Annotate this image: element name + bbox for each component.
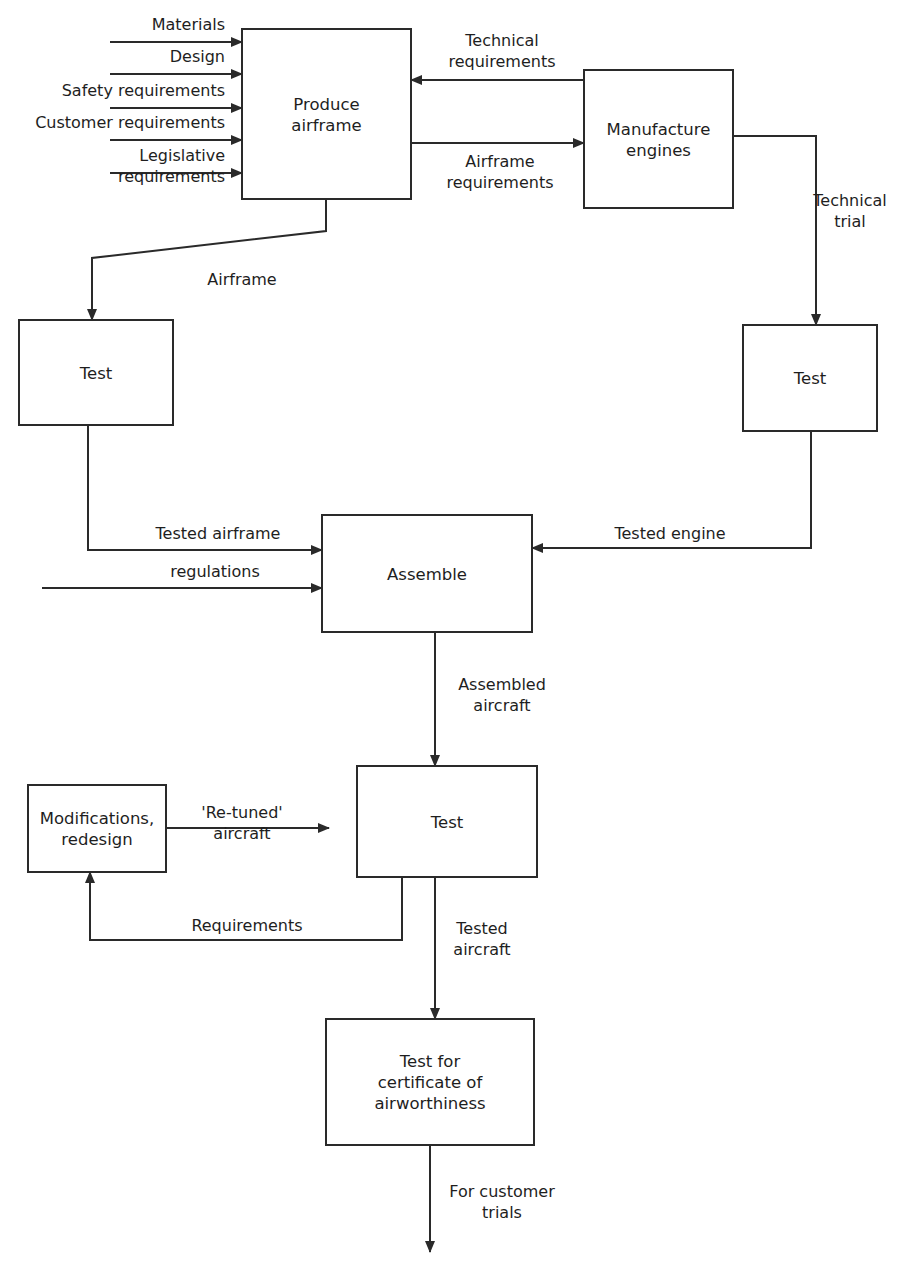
- edge-retuned-aircraft: 'Re-tuned'aircraft: [166, 803, 329, 843]
- edge-safety: Safety requirements: [62, 81, 242, 108]
- node-manufacture-engines: Manufactureengines: [584, 70, 733, 208]
- edge-legislative: Legislativerequirements: [110, 146, 242, 186]
- edge-technical-requirements: Technicalrequirements: [411, 31, 584, 80]
- edge-label: regulations: [170, 562, 260, 581]
- edge-label: Customer requirements: [35, 113, 225, 132]
- edge-for-customer-trials: For customertrials: [430, 1145, 555, 1252]
- edge-label: For customertrials: [449, 1182, 555, 1222]
- edge-tested-airframe: Tested airframe: [88, 425, 322, 550]
- edge-technical-trial: Technicaltrial: [733, 136, 887, 325]
- edge-label: Materials: [152, 15, 225, 34]
- edge-label: Technicalrequirements: [448, 31, 555, 71]
- edge-label: Testedaircraft: [453, 919, 510, 959]
- process-box-label: Test: [793, 369, 827, 388]
- edge-label: 'Re-tuned'aircraft: [201, 803, 282, 843]
- edge-label: Requirements: [191, 916, 302, 935]
- edge-label: Tested airframe: [155, 524, 281, 543]
- edge-label: Airframerequirements: [446, 152, 553, 192]
- edge-design: Design: [110, 47, 242, 74]
- arrow-connector: [733, 136, 816, 325]
- edge-label: Technicaltrial: [812, 191, 886, 231]
- edge-assembled-aircraft: Assembledaircraft: [435, 632, 546, 766]
- edge-regulations: regulations: [42, 562, 322, 588]
- node-modifications: Modifications,redesign: [28, 785, 166, 872]
- edge-tested-engine: Tested engine: [532, 431, 811, 548]
- edge-tested-aircraft: Testedaircraft: [435, 877, 511, 1019]
- edge-materials: Materials: [110, 15, 242, 42]
- process-box-label: Test: [79, 364, 113, 383]
- process-box: [584, 70, 733, 208]
- node-certificate-test: Test forcertificate ofairworthiness: [326, 1019, 534, 1145]
- process-box: [28, 785, 166, 872]
- edge-label: Legislativerequirements: [118, 146, 225, 186]
- node-test-airframe: Test: [19, 320, 173, 425]
- node-produce-airframe: Produceairframe: [242, 29, 411, 199]
- arrow-connector: [92, 199, 326, 320]
- edge-customer: Customer requirements: [35, 113, 242, 140]
- edge-requirements-feedback: Requirements: [90, 872, 402, 940]
- edge-label: Safety requirements: [62, 81, 225, 100]
- edge-label: Airframe: [207, 270, 276, 289]
- edge-label: Tested engine: [613, 524, 725, 543]
- edge-label: Assembledaircraft: [458, 675, 546, 715]
- edge-airframe: Airframe: [92, 199, 326, 320]
- process-box: [242, 29, 411, 199]
- node-test-engine: Test: [743, 325, 877, 431]
- process-box-label: Assemble: [387, 565, 467, 584]
- edge-label: Design: [170, 47, 225, 66]
- edge-airframe-requirements: Airframerequirements: [411, 143, 584, 192]
- process-flow-diagram: MaterialsDesignSafety requirementsCustom…: [0, 0, 910, 1266]
- process-box-label: Test: [430, 813, 464, 832]
- node-test-aircraft: Test: [357, 766, 537, 877]
- node-assemble: Assemble: [322, 515, 532, 632]
